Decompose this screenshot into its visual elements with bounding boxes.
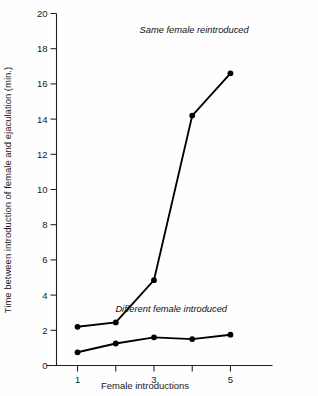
y-tick-label: 6 (42, 254, 47, 265)
y-tick-label: 16 (37, 78, 48, 89)
data-point (189, 336, 195, 342)
y-tick-label: 20 (37, 8, 48, 19)
data-point (75, 349, 81, 355)
data-point (228, 332, 234, 338)
data-point (151, 334, 157, 340)
series-annotation: Same female reintroduced (140, 25, 250, 35)
y-tick-label: 14 (37, 114, 48, 125)
y-axis-title: Time between introduction of female and … (2, 67, 13, 313)
x-axis-title: Female introductions (101, 380, 189, 391)
series-annotation: Different female introduced (115, 304, 227, 314)
line-chart: 02468101214161820 135 Same female reintr… (0, 0, 318, 396)
data-point (189, 113, 195, 119)
data-point (113, 341, 119, 347)
data-series (75, 332, 234, 355)
x-tick-label: 5 (228, 374, 233, 385)
data-point (228, 70, 234, 76)
data-series (75, 70, 234, 329)
y-tick-label: 18 (37, 43, 48, 54)
y-tick-label: 0 (42, 360, 47, 371)
data-point (151, 277, 157, 283)
x-axis-ticks (78, 366, 231, 372)
x-tick-label: 1 (75, 374, 80, 385)
y-axis-ticks (51, 14, 57, 366)
y-axis-tick-labels: 02468101214161820 (37, 8, 48, 371)
y-tick-label: 4 (42, 290, 47, 301)
series-annotations: Same female reintroducedDifferent female… (115, 25, 249, 314)
y-tick-label: 10 (37, 184, 48, 195)
y-tick-label: 12 (37, 149, 48, 160)
chart-figure: 02468101214161820 135 Same female reintr… (0, 0, 318, 396)
y-tick-label: 2 (42, 325, 47, 336)
y-tick-label: 8 (42, 219, 47, 230)
series-line (78, 73, 231, 326)
data-point (113, 319, 119, 325)
data-point (75, 324, 81, 330)
